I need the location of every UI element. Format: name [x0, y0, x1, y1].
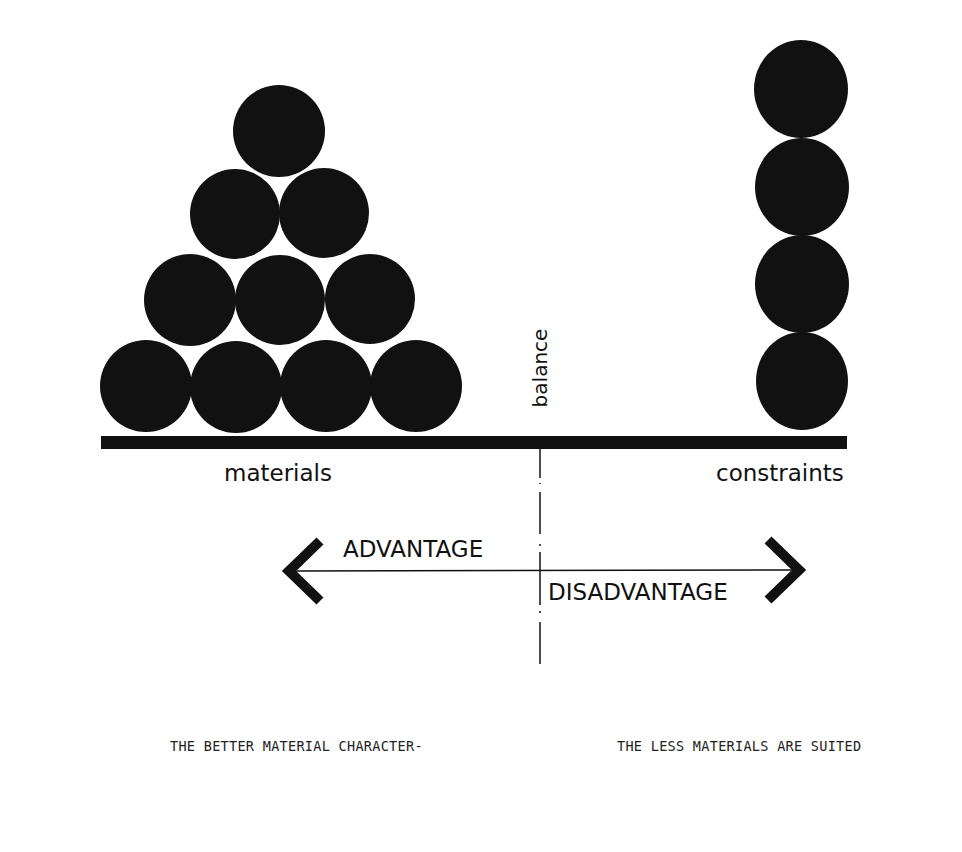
weight-circle: [370, 340, 462, 432]
caption-line: THE LESS MATERIALS ARE SUITED: [617, 726, 870, 767]
weight-circle: [756, 332, 848, 430]
constraints-label: constraints: [716, 460, 844, 486]
constraints-weights: [754, 40, 849, 430]
weight-circle: [100, 340, 192, 432]
weight-circle: [279, 168, 369, 258]
constraints-caption: THE LESS MATERIALS ARE SUITED TO THE DES…: [617, 644, 870, 852]
weight-circle: [280, 340, 372, 432]
weight-circle: [190, 341, 282, 433]
balance-beam: [101, 436, 847, 449]
weight-circle: [190, 169, 280, 259]
weight-circle: [235, 255, 325, 345]
weight-circle: [233, 85, 325, 177]
materials-label: materials: [224, 460, 332, 486]
materials-caption: THE BETTER MATERIAL CHARACTER- ISTICS SU…: [170, 644, 423, 852]
weight-circle: [755, 235, 849, 333]
weight-circle: [325, 254, 415, 344]
weight-circle: [755, 138, 849, 236]
weight-circle: [144, 254, 236, 346]
caption-line: THE BETTER MATERIAL CHARACTER-: [170, 726, 423, 767]
balance-label: balance: [528, 329, 552, 408]
weight-circle: [754, 40, 848, 138]
advantage-label: ADVANTAGE: [343, 536, 483, 562]
arrow-shaft: [290, 570, 800, 571]
disadvantage-label: DISADVANTAGE: [548, 579, 728, 605]
materials-weights: [100, 85, 462, 433]
